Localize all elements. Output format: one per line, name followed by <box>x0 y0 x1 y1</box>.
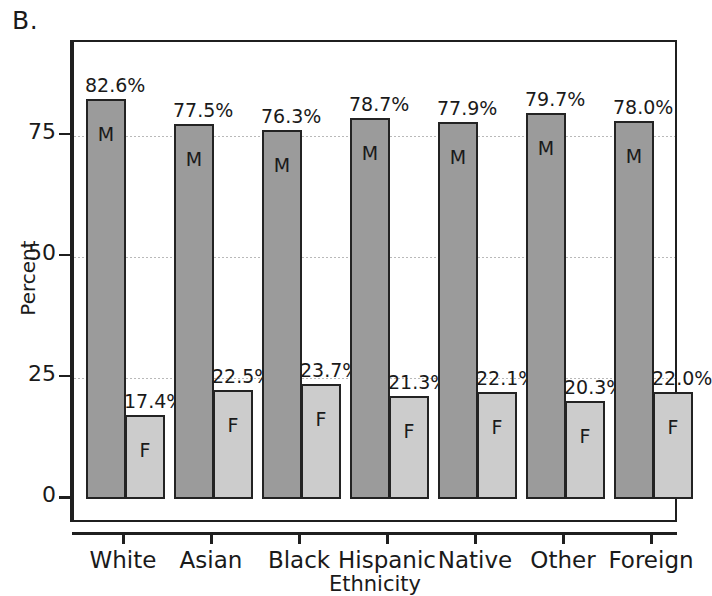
bar-series-letter: F <box>303 408 339 430</box>
x-axis-label-black: Black <box>268 547 330 573</box>
x-axis-tick <box>210 532 213 544</box>
bar-black-m: M <box>262 130 302 499</box>
bar-series-letter: M <box>616 145 652 167</box>
bar-foreign-m: M <box>614 121 654 499</box>
x-axis-line <box>72 532 677 535</box>
bar-value-label: 77.9% <box>437 97 497 119</box>
x-axis-label-white: White <box>90 547 157 573</box>
x-axis-label-foreign: Foreign <box>608 547 693 573</box>
bar-native-m: M <box>438 122 478 499</box>
x-axis-tick <box>474 532 477 544</box>
bar-value-label: 82.6% <box>85 74 145 96</box>
bar-value-label: 78.0% <box>613 96 673 118</box>
y-axis-tick-label: 25 <box>6 361 56 386</box>
bar-asian-f: F <box>213 390 253 499</box>
bar-hispanic-m: M <box>350 118 390 499</box>
bar-value-label: 22.0% <box>652 367 712 389</box>
bar-other-f: F <box>565 401 605 499</box>
y-axis-tick-labels: 0255075 <box>0 0 56 592</box>
x-axis-tick <box>298 532 301 544</box>
x-axis-label-hispanic: Hispanic <box>338 547 436 573</box>
x-axis-label-asian: Asian <box>180 547 243 573</box>
bar-series-letter: M <box>440 146 476 168</box>
bar-series-letter: M <box>264 154 300 176</box>
bar-value-label: 79.7% <box>525 88 585 110</box>
x-axis-title: Ethnicity <box>329 572 421 596</box>
bar-black-f: F <box>301 384 341 499</box>
bar-white-m: M <box>86 99 126 499</box>
bar-other-m: M <box>526 113 566 499</box>
bar-series-letter: M <box>176 148 212 170</box>
x-axis-tick <box>386 532 389 544</box>
bar-value-label: 78.7% <box>349 93 409 115</box>
y-axis-tick-label: 0 <box>6 482 56 507</box>
y-axis-tick-label: 50 <box>6 240 56 265</box>
bar-series-letter: F <box>655 416 691 438</box>
bar-value-label: 76.3% <box>261 105 321 127</box>
x-axis-label-native: Native <box>438 547 512 573</box>
bar-white-f: F <box>125 415 165 499</box>
bar-foreign-f: F <box>653 392 693 499</box>
bar-series-letter: F <box>567 425 603 447</box>
bar-series-letter: M <box>88 123 124 145</box>
x-axis-tick <box>562 532 565 544</box>
plot-inner: M82.6%F17.4%M77.5%F22.5%M76.3%F23.7%M78.… <box>74 42 675 520</box>
bar-series-letter: M <box>352 142 388 164</box>
bar-native-f: F <box>477 392 517 499</box>
bar-asian-m: M <box>174 124 214 499</box>
bar-series-letter: F <box>127 439 163 461</box>
bar-value-label: 77.5% <box>173 99 233 121</box>
bar-series-letter: F <box>215 414 251 436</box>
bar-series-letter: M <box>528 137 564 159</box>
bar-series-letter: F <box>391 420 427 442</box>
x-axis-tick <box>122 532 125 544</box>
x-axis-label-other: Other <box>530 547 595 573</box>
y-axis-tick-label: 75 <box>6 119 56 144</box>
bar-series-letter: F <box>479 416 515 438</box>
x-axis-tick <box>650 532 653 544</box>
plot-area: M82.6%F17.4%M77.5%F22.5%M76.3%F23.7%M78.… <box>72 40 677 522</box>
bar-hispanic-f: F <box>389 396 429 499</box>
